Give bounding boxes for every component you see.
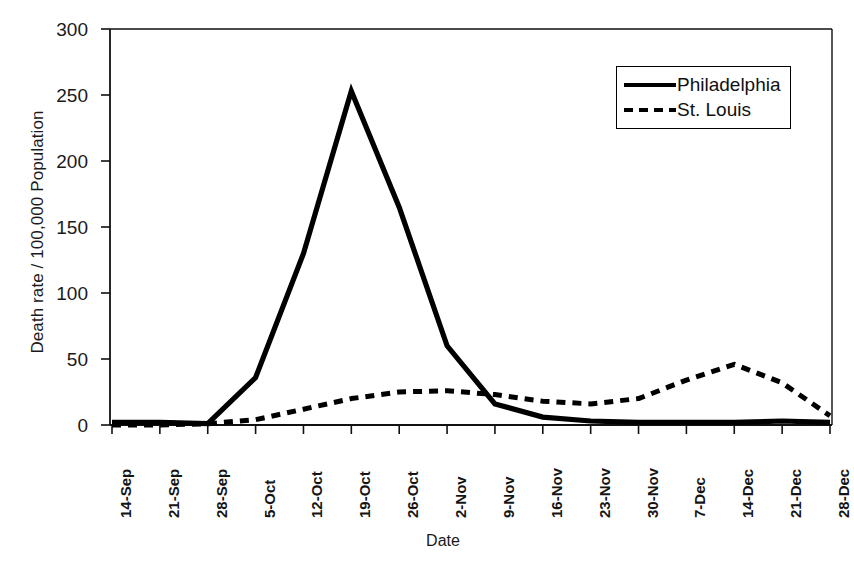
- x-tick-label-12-oct: 12-Oct: [309, 471, 324, 518]
- x-tick-label-28-dec: 28-Dec: [836, 469, 851, 518]
- y-tick-label-200: 200: [26, 152, 88, 171]
- y-axis-ticks: [101, 29, 110, 425]
- legend-label-st-louis: St. Louis: [677, 100, 751, 119]
- x-tick-label-21-dec: 21-Dec: [788, 469, 803, 518]
- x-tick-label-14-dec: 14-Dec: [740, 469, 755, 518]
- x-tick-label-28-sep: 28-Sep: [214, 469, 229, 518]
- x-tick-label-23-nov: 23-Nov: [597, 468, 612, 518]
- y-tick-label-250: 250: [26, 86, 88, 105]
- x-tick-label-21-sep: 21-Sep: [166, 469, 181, 518]
- x-tick-label-9-nov: 9-Nov: [501, 476, 516, 518]
- legend-swatch-solid-line-icon: [624, 78, 676, 92]
- x-axis-title: Date: [0, 532, 854, 550]
- legend-label-philadelphia: Philadelphia: [677, 75, 781, 94]
- legend-entry-philadelphia: Philadelphia: [624, 72, 781, 97]
- series-group: [112, 91, 830, 425]
- y-tick-label-300: 300: [26, 20, 88, 39]
- series-line-philadelphia: [112, 91, 830, 424]
- x-tick-label-26-oct: 26-Oct: [405, 471, 420, 518]
- chart-legend: Philadelphia St. Louis: [616, 66, 791, 129]
- x-tick-label-19-oct: 19-Oct: [357, 471, 372, 518]
- x-tick-label-14-sep: 14-Sep: [118, 469, 133, 518]
- x-tick-label-30-nov: 30-Nov: [645, 468, 660, 518]
- y-tick-label-0: 0: [26, 416, 88, 435]
- legend-swatch-dashed-line-icon: [624, 103, 676, 117]
- x-tick-label-2-nov: 2-Nov: [453, 476, 468, 518]
- x-tick-label-16-nov: 16-Nov: [549, 468, 564, 518]
- y-tick-label-150: 150: [26, 218, 88, 237]
- x-axis-ticks: [112, 425, 830, 434]
- x-tick-label-7-dec: 7-Dec: [692, 477, 707, 518]
- legend-entry-st-louis: St. Louis: [624, 97, 781, 122]
- x-tick-label-5-oct: 5-Oct: [262, 480, 277, 518]
- y-tick-label-50: 50: [26, 350, 88, 369]
- y-tick-label-100: 100: [26, 284, 88, 303]
